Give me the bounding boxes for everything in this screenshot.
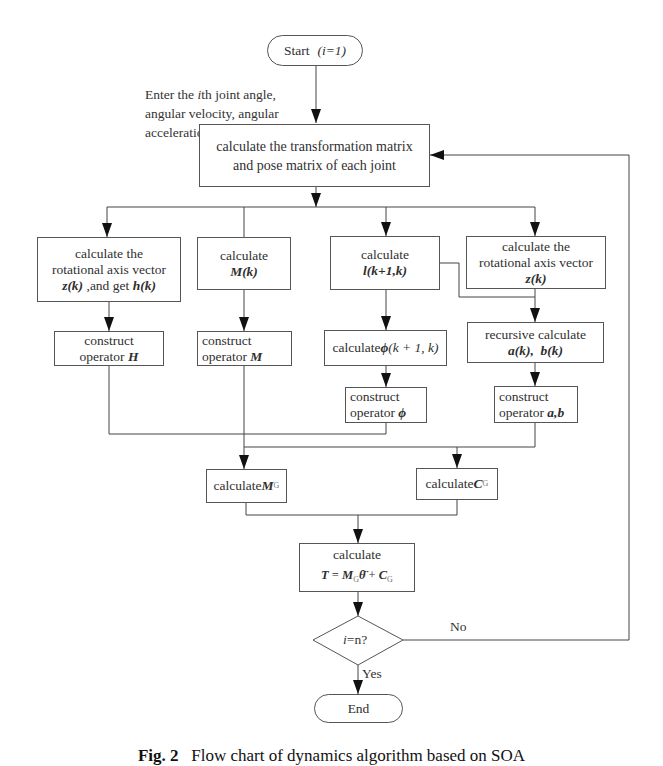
rotational-axis-z-box: calculate the rotational axis vector z(k… (466, 236, 606, 289)
transform-matrix-box: calculate the transformation matrix and … (199, 124, 430, 187)
figure-caption: Fig. 2 Flow chart of dynamics algorithm … (0, 746, 663, 766)
edge-no-label: No (450, 619, 467, 635)
start-terminal: Start (i=1) (267, 35, 363, 66)
construct-m-box: construct operator M (197, 331, 292, 366)
calculate-m-box: calculate M(k) (197, 237, 291, 290)
edge-yes-label: Yes (362, 666, 382, 682)
start-param: (i=1) (317, 43, 346, 59)
end-terminal: End (314, 694, 403, 723)
start-label: Start (284, 43, 310, 59)
calculate-cg-box: calculateCG (416, 468, 498, 500)
rotational-axis-h-box: calculate the rotational axis vector z(k… (37, 237, 181, 302)
construct-h-box: construct operator H (54, 331, 164, 366)
calculate-l-box: calculate l(k+1,k) (330, 236, 440, 290)
recursive-calculate-box: recursive calculate a(k), b(k) (467, 322, 604, 363)
calculate-torque-box: calculate T = MGθ̈ + CG (299, 543, 415, 592)
calculate-mg-box: calculateMG (206, 469, 287, 503)
construct-ab-box: construct operator a,b (494, 386, 578, 423)
calculate-phi-box: calculate ϕ(k + 1, k) (324, 330, 447, 366)
construct-phi-box: construct operator ϕ (345, 387, 427, 423)
decision-label: i=n? (343, 632, 367, 648)
